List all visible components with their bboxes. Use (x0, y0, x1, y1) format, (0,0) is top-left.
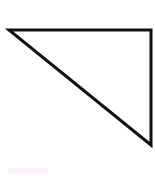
faint-artifact (8, 168, 48, 174)
diagram-canvas (0, 0, 155, 176)
right-triangle-shape (9, 30, 151, 145)
triangle-figure (0, 0, 155, 176)
